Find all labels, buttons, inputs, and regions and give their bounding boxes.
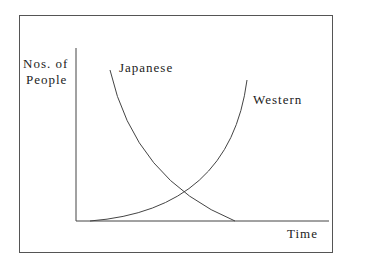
western-curve <box>90 80 247 221</box>
x-axis-label: Time <box>287 226 318 242</box>
y-axis-label-line2: People <box>26 72 67 88</box>
japanese-curve <box>110 70 235 221</box>
series-label-japanese: Japanese <box>119 60 173 76</box>
series-label-western: Western <box>253 92 302 108</box>
y-axis-label-line1: Nos. of <box>23 56 68 72</box>
